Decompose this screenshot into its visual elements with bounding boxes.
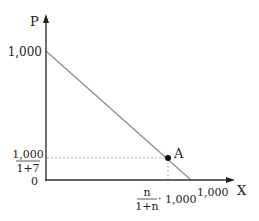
x-tick-multiplier: · 1,000 <box>158 193 196 206</box>
origin-label: 0 <box>31 175 38 188</box>
point-a <box>165 155 171 161</box>
x-tick-fraction-numerator: n <box>143 186 150 199</box>
y-tick-top: 1,000 <box>8 45 42 59</box>
y-tick-fraction-numerator: 1,000 <box>12 148 44 161</box>
y-tick-fraction-denominator: 1+7 <box>16 162 39 175</box>
y-axis-arrow-icon <box>43 14 49 23</box>
y-axis-label: P <box>30 14 39 29</box>
x-axis-label: X <box>237 183 247 198</box>
x-tick-fraction-denominator: 1+n <box>135 200 158 213</box>
demand-diagram: A P X 1,000 1,000 1+7 0 n 1+n · 1,000 1,… <box>0 0 259 221</box>
x-axis-arrow-icon <box>226 177 235 183</box>
x-tick-right: 1,000 <box>197 186 229 199</box>
point-a-label: A <box>173 146 184 161</box>
